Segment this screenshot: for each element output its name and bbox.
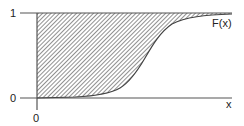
curve-label: F(x)	[212, 17, 232, 29]
cdf-diagram: 1 0 0 F(x) x	[0, 0, 244, 126]
y-tick-label-one: 1	[10, 7, 16, 19]
hatched-region	[37, 13, 232, 98]
y-tick-label-zero: 0	[10, 92, 16, 104]
x-tick-label-zero: 0	[33, 112, 39, 124]
x-axis-label: x	[226, 98, 232, 110]
